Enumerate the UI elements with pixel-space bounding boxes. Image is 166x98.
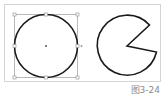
handle-bottom-right[interactable]: [76, 76, 79, 79]
handle-bottom-middle[interactable]: [45, 76, 48, 79]
handle-bottom-left[interactable]: [13, 76, 16, 79]
rotation-handle-icon[interactable]: [81, 45, 83, 47]
selected-circle-group[interactable]: [13, 13, 83, 79]
center-point-icon: [45, 45, 47, 47]
pie-wedge-shape[interactable]: [97, 15, 156, 75]
handle-top-left[interactable]: [13, 13, 16, 16]
figure-caption: 图3-24: [131, 84, 160, 96]
handle-middle-left[interactable]: [13, 45, 16, 48]
handle-top-middle[interactable]: [45, 13, 48, 16]
handle-top-right[interactable]: [76, 13, 79, 16]
handle-middle-right[interactable]: [76, 45, 79, 48]
